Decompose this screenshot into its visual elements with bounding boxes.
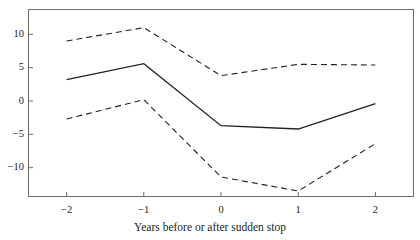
- x-tick-label: 1: [285, 205, 311, 216]
- x-tick-label: −1: [131, 205, 157, 216]
- x-axis-labels: −2−1012: [0, 0, 420, 240]
- x-tick-label: 0: [208, 205, 234, 216]
- x-axis-title: Years before or after sudden stop: [0, 221, 420, 233]
- x-tick-label: 2: [362, 205, 388, 216]
- figure-container: p 1050−5−10 −2−1012 Years before or afte…: [0, 0, 420, 240]
- x-tick-label: −2: [54, 205, 80, 216]
